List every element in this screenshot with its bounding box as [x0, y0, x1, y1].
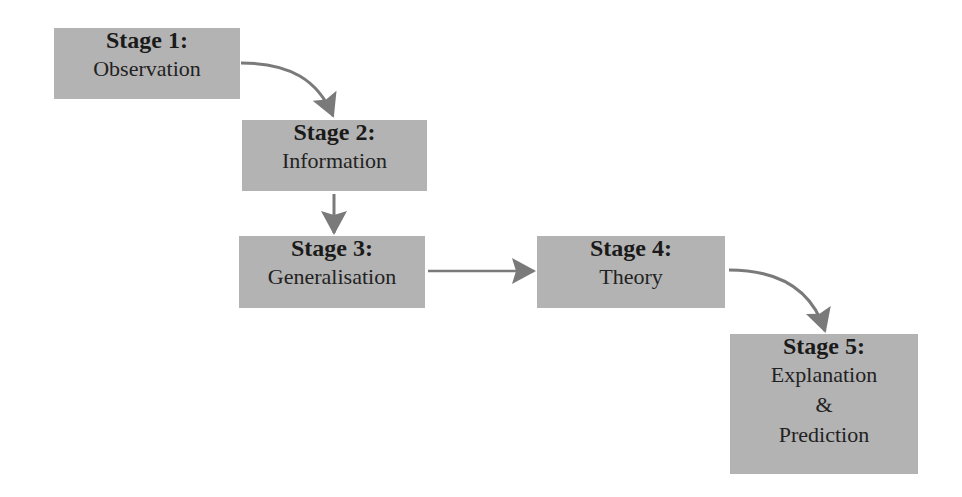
- stage-5-box: Stage 5: Explanation & Prediction: [730, 334, 918, 474]
- stage-1-box: Stage 1: Observation: [54, 28, 240, 99]
- stage-1-label: Observation: [93, 54, 201, 84]
- stage-2-label: Information: [282, 146, 387, 176]
- arrow-stage4-to-stage5: [729, 270, 825, 331]
- stage-2-title: Stage 2:: [294, 119, 376, 146]
- stage-4-label: Theory: [599, 262, 663, 292]
- stage-3-title: Stage 3:: [291, 235, 373, 262]
- stage-5-label-line2: &: [815, 390, 832, 420]
- stage-3-box: Stage 3: Generalisation: [239, 236, 425, 308]
- stage-5-label-line1: Explanation: [771, 360, 877, 390]
- stage-4-box: Stage 4: Theory: [537, 236, 725, 308]
- stage-5-title: Stage 5:: [783, 333, 865, 360]
- stage-4-title: Stage 4:: [590, 235, 672, 262]
- stage-5-label-line3: Prediction: [779, 420, 869, 450]
- stage-2-box: Stage 2: Information: [242, 120, 427, 191]
- stage-1-title: Stage 1:: [106, 27, 188, 54]
- stage-3-label: Generalisation: [268, 262, 396, 292]
- arrow-stage1-to-stage2: [241, 63, 333, 116]
